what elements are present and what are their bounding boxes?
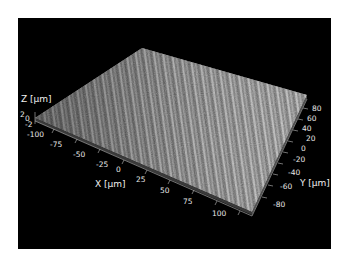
svg-text:-75: -75 — [50, 140, 62, 149]
svg-text:80: 80 — [312, 104, 322, 113]
z-axis-label: Z [µm] — [21, 94, 52, 104]
svg-text:100: 100 — [212, 209, 227, 218]
svg-text:-25: -25 — [96, 160, 108, 169]
svg-text:-80: -80 — [273, 200, 285, 209]
svg-text:25: 25 — [136, 175, 146, 184]
y-axis-label: Y [µm] — [299, 178, 330, 188]
svg-text:-60: -60 — [280, 182, 292, 191]
svg-text:20: 20 — [306, 134, 316, 143]
svg-text:-40: -40 — [288, 168, 300, 177]
surface — [35, 48, 307, 215]
x-axis-label: X [µm] — [95, 179, 126, 189]
svg-text:0: 0 — [301, 144, 306, 153]
z-tick: -2 — [25, 120, 33, 129]
svg-text:-100: -100 — [27, 130, 44, 139]
svg-text:75: 75 — [183, 197, 193, 206]
svg-text:0: 0 — [116, 165, 121, 174]
surface-plot: Z [µm] 2 0 -2 -100 -75 -50 -25 0 25 50 7… — [0, 0, 346, 265]
svg-text:-50: -50 — [73, 150, 85, 159]
svg-text:-20: -20 — [293, 155, 305, 164]
svg-text:50: 50 — [160, 186, 170, 195]
svg-text:40: 40 — [302, 124, 312, 133]
svg-text:60: 60 — [307, 114, 317, 123]
